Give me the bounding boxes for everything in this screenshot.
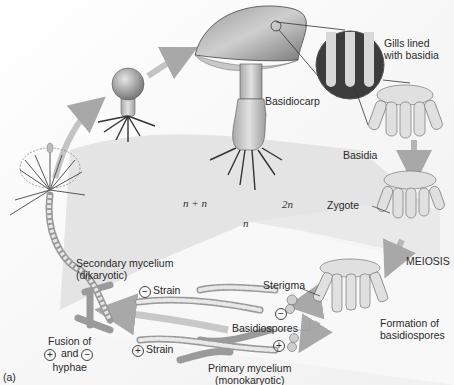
- label-fusion: Fusion of + and − hyphae: [44, 335, 95, 373]
- label-meiosis: MEIOSIS: [406, 255, 450, 267]
- fusion-and-text: and: [61, 347, 79, 359]
- panel-label: (a): [3, 371, 16, 383]
- label-fusion-line1: Fusion of: [44, 335, 95, 347]
- label-zygote: Zygote: [327, 199, 359, 211]
- minus-circle-icon: −: [275, 308, 287, 320]
- arrow-to-minus-spores: [304, 302, 318, 304]
- minus-spore-symbol: −: [275, 307, 289, 320]
- plus-circle-icon: +: [273, 340, 285, 352]
- label-fusion-line3: hyphae: [44, 361, 95, 373]
- label-fusion-line2: + and −: [44, 347, 95, 361]
- plus-strain-text: Strain: [146, 343, 173, 355]
- label-gills: Gills lined with basidia: [384, 37, 439, 61]
- label-minus-strain: −Strain: [139, 284, 180, 298]
- ploidy-n-plus-n: n + n: [183, 197, 207, 209]
- label-basidiospores: Basidiospores: [232, 322, 298, 334]
- label-primary-mycelium: Primary mycelium (monokaryotic): [208, 362, 291, 385]
- label-secondary-line1: Secondary mycelium: [76, 257, 173, 269]
- label-primary-line2: (monokaryotic): [208, 374, 291, 385]
- label-secondary-line2: (dikaryotic): [76, 269, 173, 281]
- label-formation-line2: basidiospores: [380, 329, 445, 341]
- label-secondary-mycelium: Secondary mycelium (dikaryotic): [76, 257, 173, 281]
- plus-circle-icon: +: [44, 349, 56, 361]
- label-formation-line1: Formation of: [380, 317, 445, 329]
- basidiomycete-life-cycle-diagram: Gills lined with basidia Basidiocarp Bas…: [0, 0, 454, 385]
- minus-circle-icon: −: [139, 286, 151, 298]
- label-formation: Formation of basidiospores: [380, 317, 445, 341]
- minus-strain-text: Strain: [153, 284, 180, 296]
- label-sterigma: Sterigma: [263, 279, 305, 291]
- label-gills-line1: Gills lined: [384, 37, 439, 49]
- ploidy-n: n: [243, 217, 249, 229]
- minus-circle-icon: −: [81, 349, 93, 361]
- plus-spore-symbol: +: [273, 339, 287, 352]
- plus-circle-icon: +: [132, 345, 144, 357]
- label-gills-line2: with basidia: [384, 49, 439, 61]
- label-plus-strain: +Strain: [132, 343, 173, 357]
- label-basidia: Basidia: [343, 149, 377, 161]
- label-basidiocarp: Basidiocarp: [265, 95, 320, 107]
- label-primary-line1: Primary mycelium: [208, 362, 291, 374]
- ploidy-2n: 2n: [282, 198, 293, 210]
